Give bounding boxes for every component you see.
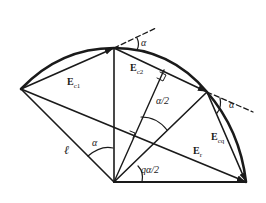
angle-arc-alpha-half [141,117,167,130]
label-ec2: Ec2 [130,63,143,76]
label-er: Er [193,146,202,159]
label-alpha-top: α [141,38,146,48]
label-alpha-right: α [229,100,234,110]
vector-ec2 [114,48,205,91]
label-ec1: Ec1 [67,77,80,90]
label-q-alpha-half: qα/2 [141,165,159,175]
radius-left [21,89,114,182]
diagram-svg [0,0,266,203]
label-ecq: Ecq [211,132,224,145]
tangent-dash-top [114,28,156,48]
label-alpha-center: α [92,138,97,148]
angle-arc-alpha-top [137,38,139,50]
diagram-canvas: Ec1 Ec2 Ecq Er ℓ α α α α/2 qα/2 [0,0,266,203]
angle-arc-alpha-center [88,147,113,156]
label-ell: ℓ [64,144,69,156]
label-alpha-half: α/2 [156,96,169,106]
